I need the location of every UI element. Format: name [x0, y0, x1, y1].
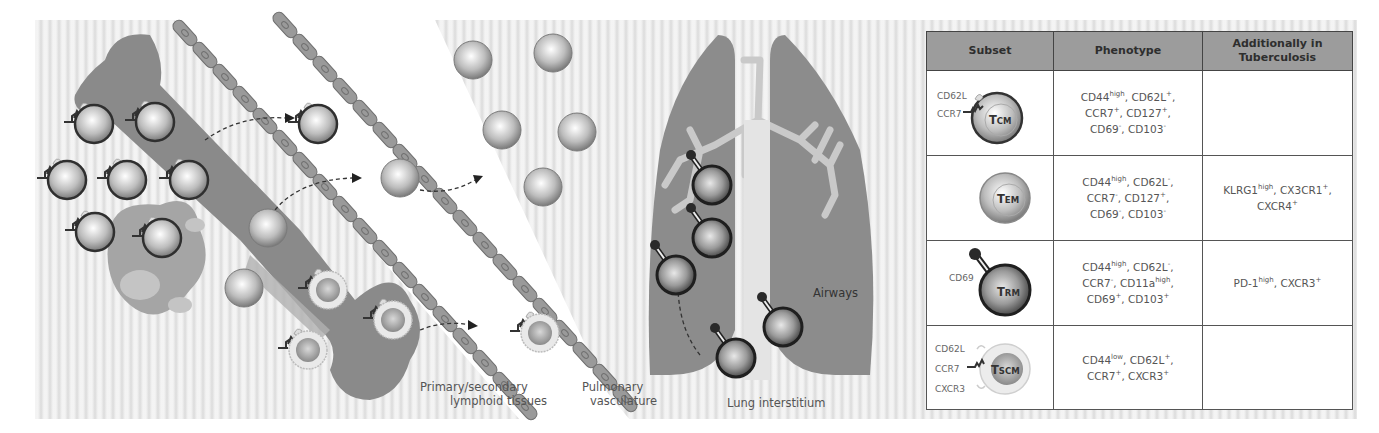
memory-t-cell-subset-table: Subset Phenotype Additionally in Tubercu… — [926, 31, 1353, 410]
subset-cell-tscm: CD62L CCR7 CXCR3 TSCM — [927, 326, 1054, 410]
tuberculosis-cell-tem: KLRG1high, CX3CR1+,CXCR4+ — [1202, 156, 1352, 241]
label-lymphoid-line1: Primary/secondary — [420, 380, 547, 394]
table-row: CD62L CCR7 TCM CD44high, CD62L+,CCR7+, C… — [927, 71, 1353, 156]
table-row: CD62L CCR7 CXCR3 TSCM CD44low, CD62L+,CC… — [927, 326, 1353, 410]
phenotype-cell-tem: CD44high, CD62L-,CCR7-, CD127+,CD69-, CD… — [1054, 156, 1203, 241]
table-header-row: Subset Phenotype Additionally in Tubercu… — [927, 32, 1353, 71]
marker-ccr7: CCR7 — [937, 106, 962, 122]
subset-cell-trm: CD69 TRM — [927, 241, 1054, 326]
marker-cd69: CD69 — [949, 270, 974, 286]
subset-name-tscm: TSCM — [991, 362, 1020, 379]
tuberculosis-cell-tcm — [1202, 71, 1352, 156]
subset-name-tcm: TCM — [989, 112, 1012, 129]
label-pulmonary-vasculature: Pulmonary vasculature — [582, 380, 657, 408]
trm-cell-icon — [927, 242, 1053, 324]
marker-ccr7: CCR7 — [935, 361, 960, 377]
header-phenotype: Phenotype — [1054, 32, 1203, 71]
label-vasculature-line1: Pulmonary — [582, 380, 657, 394]
marker-cxcr3: CXCR3 — [935, 381, 965, 397]
tem-cell-icon — [927, 157, 1053, 239]
subset-cell-tcm: CD62L CCR7 TCM — [927, 71, 1054, 156]
table-row: CD69 TRM CD44high, CD62L-,CCR7-, CD11ahi… — [927, 241, 1353, 326]
label-airways: Airways — [813, 286, 858, 300]
subset-name-tem: TEM — [997, 191, 1019, 208]
label-lung-interstitium: Lung interstitium — [727, 396, 825, 410]
label-vasculature-line2: vasculature — [582, 394, 657, 408]
table-row: TEM CD44high, CD62L-,CCR7-, CD127+,CD69-… — [927, 156, 1353, 241]
header-subset: Subset — [927, 32, 1054, 71]
phenotype-cell-tcm: CD44high, CD62L+,CCR7+, CD127+,CD69-, CD… — [1054, 71, 1203, 156]
subset-name-trm: TRM — [997, 284, 1020, 301]
label-lymphoid-line2: lymphoid tissues — [420, 394, 547, 408]
tuberculosis-cell-tscm — [1202, 326, 1352, 410]
subset-cell-tem: TEM — [927, 156, 1054, 241]
phenotype-cell-trm: CD44high, CD62L-,CCR7-, CD11ahigh,CD69+,… — [1054, 241, 1203, 326]
marker-cd62l: CD62L — [937, 88, 967, 104]
phenotype-cell-tscm: CD44low, CD62L+,CCR7+, CXCR3+ — [1054, 326, 1203, 410]
marker-cd62l: CD62L — [935, 341, 965, 357]
header-tuberculosis: Additionally in Tuberculosis — [1202, 32, 1352, 71]
label-lymphoid-tissues: Primary/secondary lymphoid tissues — [420, 380, 547, 408]
tuberculosis-cell-trm: PD-1high, CXCR3+ — [1202, 241, 1352, 326]
